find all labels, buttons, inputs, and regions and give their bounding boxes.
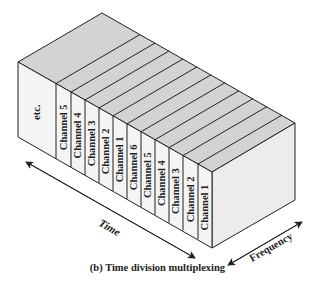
frequency-label: Frequency (248, 230, 295, 264)
channel-slot-label: Channel 5 (58, 104, 69, 150)
channel-slot-label: Channel 1 (200, 185, 211, 231)
slot-label-etc: etc. (32, 104, 43, 120)
channel-slot-label: Channel 4 (73, 112, 84, 159)
channel-slot-label: Channel 3 (171, 168, 182, 214)
channel-slot-label: Channel 5 (143, 152, 154, 198)
channel-slot-label: Channel 1 (115, 136, 126, 182)
channel-slot-label: Channel 3 (87, 121, 98, 167)
channel-slot-label: Channel 4 (157, 160, 168, 207)
channel-slot-label: Channel 2 (185, 176, 196, 222)
channel-slot-label: Channel 6 (129, 144, 140, 190)
time-label: Time (97, 216, 123, 238)
figure-caption: (b) Time division multiplexing (0, 262, 315, 273)
channel-slot-label: Channel 2 (101, 128, 112, 174)
tdm-diagram: etc.Channel 5Channel 4Channel 3Channel 2… (0, 0, 315, 285)
